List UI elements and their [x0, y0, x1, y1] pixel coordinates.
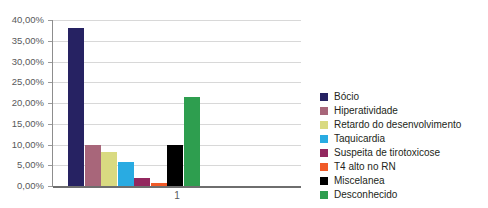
y-axis-tick-label: 35,00%	[12, 35, 44, 47]
legend-swatch-icon	[320, 163, 328, 171]
legend-item[interactable]: Miscelanea	[320, 174, 488, 188]
legend-item-label: Hiperatividade	[334, 104, 398, 118]
bar-chart: 40,00%35,00%30,00%25,00%20,00%15,00%10,0…	[0, 0, 488, 208]
y-axis-tick-label: 5,00%	[17, 159, 44, 171]
y-axis: 40,00%35,00%30,00%25,00%20,00%15,00%10,0…	[0, 14, 52, 186]
bar	[101, 152, 117, 186]
legend-item[interactable]: Retardo do desenvolvimento	[320, 118, 488, 132]
y-axis-tick-label: 0,00%	[17, 180, 44, 192]
bar	[184, 97, 200, 186]
y-axis-tick-label: 40,00%	[12, 14, 44, 26]
legend-swatch-icon	[320, 177, 328, 185]
y-axis-line	[52, 20, 53, 187]
legend-item-label: Taquicardia	[334, 132, 385, 146]
legend: BócioHiperatividadeRetardo do desenvolvi…	[320, 90, 488, 202]
y-axis-tick-label: 25,00%	[12, 76, 44, 88]
legend-swatch-icon	[320, 107, 328, 115]
legend-swatch-icon	[320, 135, 328, 143]
bar	[68, 28, 84, 186]
legend-item[interactable]: Bócio	[320, 90, 488, 104]
legend-item-label: T4 alto no RN	[334, 160, 396, 174]
x-axis-label: 1	[53, 190, 301, 201]
bar	[134, 178, 150, 186]
x-axis-line	[53, 186, 301, 188]
legend-item[interactable]: Taquicardia	[320, 132, 488, 146]
legend-item[interactable]: Hiperatividade	[320, 104, 488, 118]
y-axis-tick-label: 30,00%	[12, 56, 44, 68]
legend-item[interactable]: Desconhecido	[320, 188, 488, 202]
legend-item-label: Retardo do desenvolvimento	[334, 118, 461, 132]
plot-wrapper: 40,00%35,00%30,00%25,00%20,00%15,00%10,0…	[0, 0, 310, 208]
legend-item[interactable]: T4 alto no RN	[320, 160, 488, 174]
y-axis-tick-label: 15,00%	[12, 118, 44, 130]
legend-swatch-icon	[320, 191, 328, 199]
legend-swatch-icon	[320, 121, 328, 129]
legend-item-label: Miscelanea	[334, 174, 385, 188]
plot-area	[53, 20, 301, 186]
legend-item-label: Suspeita de tirotoxicose	[334, 146, 440, 160]
bar	[85, 145, 101, 187]
legend-swatch-icon	[320, 149, 328, 157]
legend-swatch-icon	[320, 93, 328, 101]
bar-series	[53, 20, 301, 186]
y-axis-tick-label: 20,00%	[12, 97, 44, 109]
legend-item[interactable]: Suspeita de tirotoxicose	[320, 146, 488, 160]
y-axis-tick-label: 10,00%	[12, 139, 44, 151]
legend-item-label: Desconhecido	[334, 188, 397, 202]
bar	[167, 145, 183, 187]
legend-item-label: Bócio	[334, 90, 359, 104]
bar	[118, 162, 134, 186]
